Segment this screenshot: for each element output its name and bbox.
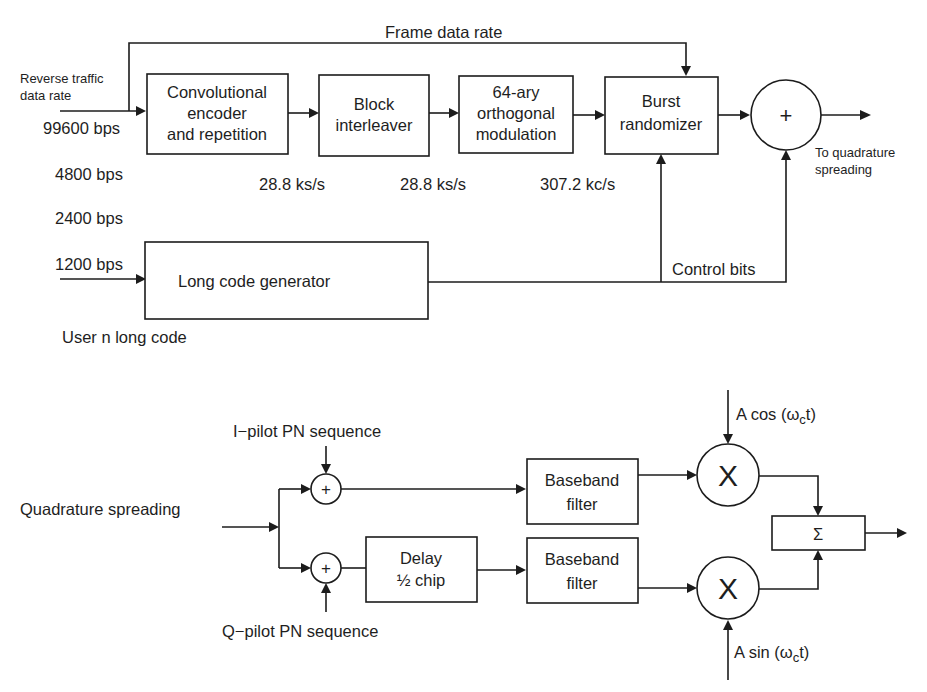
plus-icon: + [321, 559, 331, 578]
arrowhead-icon [136, 106, 146, 116]
delay-half-chip-block: Delay ½ chip [366, 537, 477, 602]
svg-text:Long code generator: Long code generator [178, 272, 331, 290]
long-code-generator-block: Long code generator [145, 242, 428, 319]
symbol-rate-label: 28.8 ks/s [400, 175, 466, 193]
arrowhead-icon [321, 464, 331, 474]
svg-text:Convolutional: Convolutional [167, 83, 267, 101]
svg-text:randomizer: randomizer [620, 115, 703, 133]
arrowhead-icon [595, 110, 605, 120]
svg-text:encoder: encoder [187, 104, 247, 122]
data-rate-labels: 99600 bps 4800 bps 2400 bps 1200 bps [43, 119, 123, 273]
i-mixer: X [697, 444, 759, 506]
modulo-2-adder: + [751, 80, 821, 150]
svg-text:orthogonal: orthogonal [477, 104, 555, 122]
long-code-input [60, 274, 146, 284]
orthogonal-modulation-block: 64-ary orthogonal modulation [459, 76, 573, 153]
sigma-icon: Σ [813, 525, 823, 543]
arrowhead-icon [309, 108, 319, 118]
quadrature-spreading-label: Quadrature spreading [20, 500, 181, 518]
arrowhead-icon [687, 470, 697, 480]
svg-text:and repetition: and repetition [167, 125, 267, 143]
symbol-rate-label: 28.8 ks/s [259, 175, 325, 193]
long-code-output-path: Control bits [428, 150, 791, 282]
arrowhead-icon [269, 522, 279, 532]
q-baseband-filter-block: Baseband filter [527, 538, 638, 603]
multiply-icon: X [718, 572, 738, 605]
control-bits-label: Control bits [672, 260, 755, 278]
arrowhead-icon [301, 563, 311, 573]
rate-label: 1200 bps [55, 255, 123, 273]
svg-text:½ chip: ½ chip [397, 571, 446, 589]
arrowhead-icon [897, 528, 907, 538]
svg-text:Delay: Delay [400, 549, 443, 567]
arrowhead-icon [723, 434, 733, 444]
q-pilot-label: Q−pilot PN sequence [222, 622, 378, 640]
i-pilot-adder: + [311, 474, 341, 504]
block-interleaver-block: Block interleaver [319, 75, 429, 156]
arrowhead-icon [781, 150, 791, 160]
multiply-icon: X [718, 459, 738, 492]
user-long-code-label: User n long code [62, 328, 187, 346]
arrowhead-icon [656, 154, 666, 164]
arrowhead-icon [813, 550, 823, 560]
svg-text:Burst: Burst [642, 92, 681, 110]
svg-text:Block: Block [354, 95, 395, 113]
svg-text:Baseband: Baseband [545, 471, 619, 489]
svg-text:64-ary: 64-ary [493, 83, 541, 101]
arrowhead-icon [813, 506, 823, 516]
arrowhead-icon [687, 583, 697, 593]
svg-text:filter: filter [566, 574, 598, 592]
svg-text:Baseband: Baseband [545, 550, 619, 568]
frame-data-rate-label: Frame data rate [385, 23, 502, 41]
plus-icon: + [321, 480, 331, 499]
arrowhead-icon [723, 620, 733, 630]
arrowhead-icon [516, 565, 526, 575]
arrowhead-icon [740, 110, 750, 120]
input-label-line1: Reverse traffic [20, 71, 104, 86]
i-baseband-filter-block: Baseband filter [527, 459, 638, 524]
arrowhead-icon [516, 484, 526, 494]
q-pilot-adder: + [311, 553, 341, 583]
svg-text:modulation: modulation [476, 125, 557, 143]
arrowhead-icon [860, 110, 871, 120]
arrowhead-icon [321, 583, 331, 593]
arrowhead-icon [301, 484, 311, 494]
plus-icon: + [780, 103, 793, 128]
i-pilot-label: I−pilot PN sequence [233, 422, 381, 440]
rate-label: 4800 bps [55, 165, 123, 183]
svg-text:interleaver: interleaver [335, 116, 413, 134]
reverse-traffic-input: Reverse traffic data rate [20, 71, 146, 116]
arrowhead-icon [449, 108, 459, 118]
rate-label: 99600 bps [43, 119, 120, 137]
q-mixer: X [697, 557, 759, 619]
chip-rate-label: 307.2 kc/s [540, 175, 615, 193]
input-label-line2: data rate [20, 88, 71, 103]
arrowhead-icon [681, 66, 691, 76]
output-label-line2: spreading [815, 162, 872, 177]
convolutional-encoder-block: Convolutional encoder and repetition [147, 74, 288, 154]
sin-carrier-label: A sin (ωct) [734, 643, 809, 665]
cos-carrier-label: A cos (ωct) [736, 405, 816, 427]
rate-label: 2400 bps [55, 209, 123, 227]
svg-text:filter: filter [566, 495, 598, 513]
summation-block: Σ [772, 516, 865, 550]
burst-randomizer-block: Burst randomizer [605, 77, 718, 154]
cdma-reverse-link-diagram: Reverse traffic data rate 99600 bps 4800… [0, 0, 927, 692]
output-label-line1: To quadrature [815, 145, 895, 160]
